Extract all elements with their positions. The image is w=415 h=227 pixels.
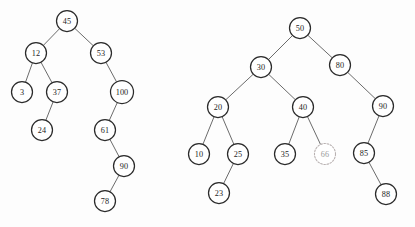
tree-edge — [222, 117, 234, 145]
tree-edge — [348, 72, 376, 99]
tree-node-45[interactable]: 45 — [57, 11, 78, 32]
tree-node-23[interactable]: 23 — [209, 183, 230, 204]
tree-edge — [268, 35, 292, 59]
tree-node-90[interactable]: 90 — [114, 156, 135, 177]
tree-node-85[interactable]: 85 — [354, 143, 375, 164]
tree-edge — [224, 163, 234, 183]
node-label: 20 — [214, 103, 222, 112]
tree-node-78[interactable]: 78 — [95, 191, 116, 212]
tree-node-20[interactable]: 20 — [208, 97, 229, 118]
tree-edge — [109, 103, 117, 121]
tree-edge — [308, 35, 333, 58]
tree-node-24[interactable]: 24 — [32, 120, 53, 141]
tree-node-40[interactable]: 40 — [293, 97, 314, 118]
binary-tree-diagram: 4512533371002461907850308020409010253566… — [0, 0, 415, 227]
tree-node-90[interactable]: 90 — [373, 96, 394, 117]
tree-node-53[interactable]: 53 — [91, 43, 112, 64]
tree-edge — [289, 117, 299, 144]
tree-edge — [368, 116, 379, 144]
tree-node-37[interactable]: 37 — [47, 82, 68, 103]
node-label: 90 — [379, 102, 387, 111]
tree-node-50[interactable]: 50 — [290, 18, 311, 39]
tree-node-80[interactable]: 80 — [330, 55, 351, 76]
tree-edge — [43, 29, 59, 46]
node-label: 100 — [116, 88, 129, 97]
node-label: 50 — [296, 24, 304, 33]
tree-edge — [110, 139, 119, 156]
node-label: 85 — [360, 149, 368, 158]
tree-node-61[interactable]: 61 — [95, 120, 116, 141]
tree-edge — [46, 102, 53, 120]
tree-edge — [226, 74, 254, 100]
node-label: 24 — [38, 126, 46, 135]
node-label: 35 — [281, 150, 289, 159]
tree-edge — [75, 28, 94, 46]
tree-node-25[interactable]: 25 — [228, 144, 249, 165]
tree-edge — [307, 117, 320, 145]
tree-nodes-right-tree: 50308020409010253566852388 — [189, 18, 397, 205]
tree-edge — [369, 162, 381, 185]
tree-node-30[interactable]: 30 — [251, 57, 272, 78]
node-label: 66 — [321, 150, 329, 159]
tree-edge — [110, 175, 119, 192]
tree-node-10[interactable]: 10 — [189, 144, 210, 165]
node-label: 80 — [336, 61, 344, 70]
tree-node-12[interactable]: 12 — [26, 43, 47, 64]
tree-edge — [203, 117, 214, 145]
node-label: 12 — [32, 49, 40, 58]
node-label: 61 — [101, 126, 109, 135]
tree-node-35[interactable]: 35 — [275, 144, 296, 165]
tree-node-66[interactable]: 66 — [315, 144, 336, 165]
node-label: 25 — [234, 150, 242, 159]
tree-node-88[interactable]: 88 — [376, 184, 397, 205]
tree-node-3[interactable]: 3 — [12, 82, 33, 103]
node-label: 45 — [63, 17, 71, 26]
tree-node-100[interactable]: 100 — [111, 81, 134, 104]
nodes-layer: 4512533371002461907850308020409010253566… — [12, 11, 397, 212]
node-label: 10 — [195, 150, 203, 159]
node-label: 78 — [101, 197, 109, 206]
node-label: 30 — [257, 63, 265, 72]
tree-edge — [41, 62, 52, 83]
node-label: 53 — [97, 49, 105, 58]
node-label: 88 — [382, 190, 390, 199]
node-label: 90 — [120, 162, 128, 171]
node-label: 40 — [299, 103, 307, 112]
tree-edge — [269, 74, 296, 100]
tree-edge — [26, 63, 33, 82]
figure-root: 4512533371002461907850308020409010253566… — [0, 0, 415, 227]
node-label: 23 — [215, 189, 223, 198]
edges-layer — [26, 28, 381, 192]
node-label: 3 — [20, 88, 24, 97]
node-label: 37 — [53, 88, 61, 97]
tree-edge — [106, 62, 117, 82]
